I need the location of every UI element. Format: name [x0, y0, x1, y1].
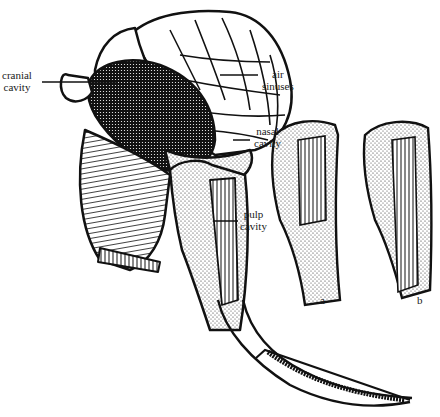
label-pulp-cavity: pulp cavity	[240, 208, 267, 232]
tusk	[218, 300, 412, 406]
label-panel-b: b	[417, 294, 423, 306]
label-air-sinuses: air sinuses	[262, 68, 294, 92]
skull-main	[61, 11, 292, 330]
label-line: nasal	[254, 125, 281, 137]
label-line: cavity	[254, 137, 281, 149]
label-nasal-cavity: nasal cavity	[254, 125, 281, 149]
label-cranial-cavity: cranial cavity	[2, 69, 32, 93]
label-line: cranial	[2, 69, 32, 81]
label-line: pulp	[240, 208, 267, 220]
section-a	[272, 121, 340, 305]
label-line: cavity	[2, 81, 32, 93]
label-line: cavity	[240, 220, 267, 232]
section-b	[364, 122, 431, 298]
label-panel-a: a	[320, 294, 325, 306]
skull-illustration	[0, 0, 440, 417]
label-line: air	[262, 68, 294, 80]
label-line: sinuses	[262, 80, 294, 92]
